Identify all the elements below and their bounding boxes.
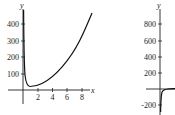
left-x-tick-label: 6 — [65, 93, 69, 102]
left-y-tick-label: 100 — [7, 70, 19, 79]
right-y-tick-label: 200 — [144, 69, 156, 78]
left-y-ticks: 400 300 200 100 — [7, 20, 25, 79]
right-y-tick-label: 800 — [144, 20, 156, 29]
right-y-tick-label: 600 — [144, 37, 156, 46]
right-y-tick-label: -200 — [141, 101, 156, 110]
left-x-axis-label: x — [90, 86, 95, 95]
right-curve — [161, 89, 175, 112]
left-curve — [24, 10, 92, 87]
left-y-tick-label: 400 — [7, 20, 19, 29]
left-y-tick-label: 300 — [7, 37, 19, 46]
left-chart: y x 400 300 200 100 2 4 6 8 — [7, 1, 95, 104]
left-y-tick-label: 200 — [7, 53, 19, 62]
left-x-tick-label: 2 — [36, 93, 40, 102]
left-y-axis-label: y — [19, 1, 24, 10]
right-y-ticks: 800 600 400 200 -200 — [141, 20, 162, 110]
left-x-tick-label: 8 — [80, 93, 84, 102]
right-y-axis-label: y — [156, 1, 161, 10]
figure: y x 400 300 200 100 2 4 6 8 — [0, 0, 175, 115]
right-y-tick-label: 400 — [144, 53, 156, 62]
left-x-tick-label: 4 — [51, 93, 55, 102]
right-chart: y 800 600 400 200 -200 — [141, 1, 175, 115]
